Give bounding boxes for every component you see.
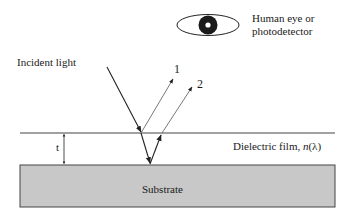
ray-2-label: 2 [197,78,203,90]
detector-label-line1: Human eye or [252,12,314,24]
detector-label-line2: photodetector [252,25,312,37]
eye-icon [177,15,239,36]
refracted-ray-up [150,135,161,164]
substrate-label: Substrate [142,183,183,195]
ray-1-label: 1 [174,63,180,75]
reflected-ray-1 [141,79,173,133]
reflected-ray-2 [162,87,192,133]
refracted-ray-down [141,133,150,163]
dielectric-film-label: Dielectric film, n(λ) [233,140,321,152]
incident-light-label: Incident light [17,56,76,68]
film-label-prefix: Dielectric film, [233,140,303,152]
film-label-suffix: (λ) [308,140,321,152]
incident-ray [107,67,141,132]
thickness-label: t [56,141,59,153]
